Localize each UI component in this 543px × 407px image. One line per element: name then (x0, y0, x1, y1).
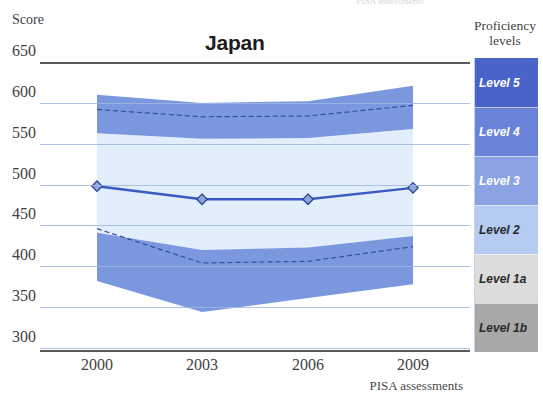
legend-item-level-4[interactable]: Level 4 (474, 107, 538, 156)
legend-item-label: Level 4 (474, 125, 520, 139)
legend-item-level-1b[interactable]: Level 1b (474, 303, 538, 352)
top-caption-remnant: PISA assessments (356, 0, 424, 6)
x-tick-2009: 2009 (397, 356, 429, 374)
y-axis-title: Score (12, 12, 44, 28)
band-75th-to-95th-percentile-band (97, 86, 413, 139)
legend-item-label: Level 1a (474, 272, 526, 286)
y-tick-450: 450 (12, 205, 36, 223)
x-tick-2003: 2003 (186, 356, 218, 374)
chart-root: PISA assessments Score Japan Proficiency… (0, 0, 543, 407)
legend-separator (474, 205, 538, 206)
legend-separator (474, 107, 538, 108)
y-tick-500: 500 (12, 165, 36, 183)
gridline-600 (40, 103, 470, 104)
legend-item-level-2[interactable]: Level 2 (474, 205, 538, 254)
gridline-300 (40, 348, 470, 349)
gridline-350 (40, 307, 470, 308)
band-25th-to-75th-percentile-range (97, 129, 413, 250)
legend-item-label: Level 1b (474, 321, 527, 335)
gridline-500 (40, 185, 470, 186)
legend-item-level-5[interactable]: Level 5 (474, 58, 538, 107)
gridline-400 (40, 266, 470, 267)
x-tick-2000: 2000 (81, 356, 113, 374)
legend-item-label: Level 5 (474, 76, 520, 90)
y-tick-600: 600 (12, 83, 36, 101)
legend-title-line1: Proficiency (466, 18, 543, 33)
legend-separator (474, 303, 538, 304)
gridline-650 (40, 62, 470, 64)
legend-item-level-1a[interactable]: Level 1a (474, 254, 538, 303)
gridline-550 (40, 144, 470, 145)
y-tick-350: 350 (12, 287, 36, 305)
legend-separator (474, 156, 538, 157)
y-tick-300: 300 (12, 328, 36, 346)
y-tick-650: 650 (12, 42, 36, 60)
x-axis-title: PISA assessments (369, 378, 463, 394)
x-tick-2006: 2006 (292, 356, 324, 374)
y-tick-400: 400 (12, 246, 36, 264)
plot-area (40, 58, 470, 352)
chart-title: Japan (205, 31, 265, 55)
proficiency-legend: Level 5Level 4Level 3Level 2Level 1aLeve… (474, 58, 538, 352)
gridline-450 (40, 225, 470, 226)
legend-title: Proficiency levels (466, 18, 543, 48)
legend-item-label: Level 2 (474, 223, 520, 237)
x-axis-line (40, 350, 470, 352)
y-tick-550: 550 (12, 124, 36, 142)
legend-separator (474, 254, 538, 255)
legend-item-level-3[interactable]: Level 3 (474, 156, 538, 205)
legend-title-line2: levels (466, 33, 543, 48)
legend-item-label: Level 3 (474, 174, 520, 188)
